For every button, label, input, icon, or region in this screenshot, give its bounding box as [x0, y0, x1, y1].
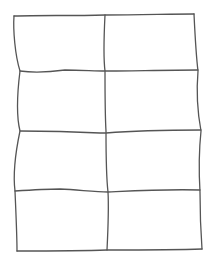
cell-r2-c2 [107, 72, 198, 130]
cell-r3-c2 [108, 132, 199, 190]
grid-sketch [0, 0, 212, 255]
cell-r4-c1 [17, 193, 106, 249]
frame-top-edge [14, 14, 194, 16]
frame-bottom-edge [17, 249, 202, 251]
cell-r2-c1 [18, 73, 104, 130]
cell-r1-c1 [16, 17, 104, 70]
cell-r1-c2 [107, 16, 195, 70]
cell-r3-c1 [17, 134, 105, 190]
row-divider-1 [20, 70, 198, 72]
cell-r4-c2 [109, 192, 200, 249]
